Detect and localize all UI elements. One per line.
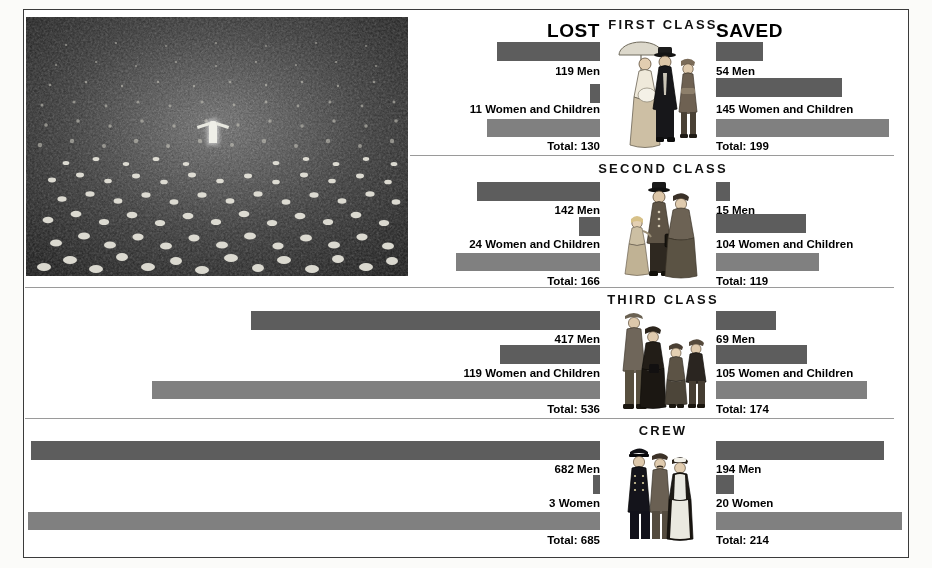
label-saved-women-first: 145 Women and Children (716, 103, 853, 115)
label-saved-total-third: Total: 174 (716, 403, 769, 415)
label-saved-women-third: 105 Women and Children (716, 367, 853, 379)
class-title-third: THIRD CLASS (607, 292, 719, 307)
label-lost-women-first: 11 Women and Children (470, 103, 600, 115)
bar-lost-women-second (579, 217, 600, 236)
label-saved-men-third: 69 Men (716, 333, 755, 345)
second-class-figures (615, 176, 711, 284)
photo-grain (26, 17, 408, 276)
crew-figures (620, 438, 706, 544)
label-saved-women-second: 104 Women and Children (716, 238, 853, 250)
divider-after-third-class (25, 418, 894, 419)
bar-saved-women-first (716, 78, 842, 97)
bar-saved-total-first (716, 119, 889, 137)
illustration-crew (620, 438, 706, 544)
infographic-root: FIRST CLASS LOST SAVED 119 Men 11 Women … (0, 0, 932, 568)
crowd-photograph (26, 17, 408, 276)
bar-saved-men-third (716, 311, 776, 330)
label-lost-women-crew: 3 Women (549, 497, 600, 509)
crowd-illustration (26, 17, 408, 276)
label-saved-men-crew: 194 Men (716, 463, 761, 475)
label-saved-men-first: 54 Men (716, 65, 755, 77)
label-saved-women-crew: 20 Women (716, 497, 773, 509)
bar-lost-total-first (487, 119, 600, 137)
bar-lost-women-first (590, 84, 600, 103)
bar-lost-women-crew (593, 475, 600, 494)
bar-lost-men-second (477, 182, 600, 201)
saved-header: SAVED (716, 20, 783, 42)
illustration-first-class (615, 33, 711, 148)
label-saved-total-crew: Total: 214 (716, 534, 769, 546)
bar-saved-men-crew (716, 441, 884, 460)
bar-lost-total-third (152, 381, 600, 399)
bar-saved-women-second (716, 214, 806, 233)
bar-saved-total-second (716, 253, 819, 271)
third-class-figures (613, 306, 713, 412)
label-lost-women-third: 119 Women and Children (463, 367, 600, 379)
bar-lost-women-third (500, 345, 600, 364)
bar-saved-women-third (716, 345, 807, 364)
bar-saved-men-second (716, 182, 730, 201)
photo-central-figure (209, 121, 217, 143)
label-saved-total-first: Total: 199 (716, 140, 769, 152)
divider-after-second-class (25, 287, 894, 288)
label-lost-men-crew: 682 Men (555, 463, 600, 475)
label-saved-total-second: Total: 119 (716, 275, 768, 287)
illustration-second-class (615, 176, 711, 284)
bar-saved-women-crew (716, 475, 734, 494)
label-lost-men-first: 119 Men (555, 65, 600, 77)
bar-lost-men-crew (31, 441, 600, 460)
label-lost-total-first: Total: 130 (547, 140, 600, 152)
first-class-figures (615, 33, 711, 148)
label-lost-total-second: Total: 166 (547, 275, 600, 287)
bar-saved-total-third (716, 381, 867, 399)
label-lost-total-crew: Total: 685 (547, 534, 600, 546)
label-lost-total-third: Total: 536 (547, 403, 600, 415)
bar-lost-men-third (251, 311, 600, 330)
lost-header: LOST (547, 20, 600, 42)
bar-lost-total-second (456, 253, 600, 271)
class-title-crew: CREW (639, 423, 688, 438)
divider-after-first-class (410, 155, 894, 156)
bar-saved-men-first (716, 42, 763, 61)
label-lost-men-second: 142 Men (555, 204, 600, 216)
class-title-first: FIRST CLASS (608, 17, 717, 32)
bar-saved-total-crew (716, 512, 902, 530)
illustration-third-class (613, 306, 713, 412)
bar-lost-men-first (497, 42, 600, 61)
label-lost-women-second: 24 Women and Children (469, 238, 600, 250)
class-title-second: SECOND CLASS (598, 161, 728, 176)
label-lost-men-third: 417 Men (555, 333, 600, 345)
bar-lost-total-crew (28, 512, 600, 530)
